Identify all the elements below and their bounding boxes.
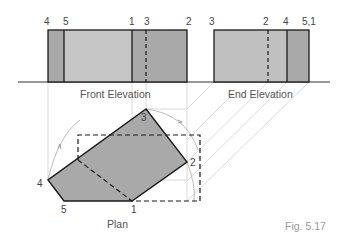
plan-label-5: 5 [61, 204, 67, 215]
plan-label-2: 2 [190, 157, 196, 168]
front-label-5: 5 [63, 16, 69, 27]
figure-caption: Fig. 5.17 [285, 220, 326, 232]
front-label-3: 3 [144, 16, 150, 27]
end-label-5-1: 5,1 [302, 16, 316, 27]
plan-label-4: 4 [37, 178, 43, 189]
front-elevation: 4 5 1 3 2 Front Elevation [44, 16, 192, 100]
plan-label: Plan [107, 218, 128, 230]
plan-label-3: 3 [141, 112, 147, 123]
orthographic-projection-diagram: 4 5 1 3 2 Front Elevation 3 2 4 5,1 End … [0, 0, 346, 241]
end-label-2: 2 [263, 16, 269, 27]
end-label-4: 4 [283, 16, 289, 27]
front-elevation-label: Front Elevation [80, 88, 151, 100]
plan-view: 3 2 1 5 4 Plan [37, 109, 200, 230]
front-label-1: 1 [129, 16, 135, 27]
end-elevation-label: End Elevation [228, 88, 293, 100]
end-elevation: 3 2 4 5,1 End Elevation [209, 16, 316, 100]
front-label-4: 4 [44, 16, 50, 27]
plan-label-1: 1 [131, 204, 137, 215]
end-label-3: 3 [209, 16, 215, 27]
front-label-2: 2 [186, 16, 192, 27]
